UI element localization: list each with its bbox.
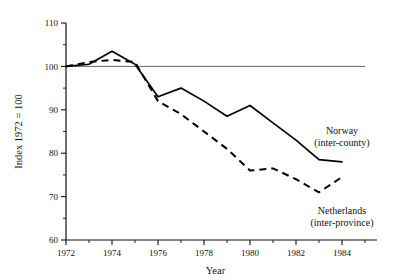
x-tick-label: 1976 xyxy=(149,248,168,258)
x-tick-label: 1978 xyxy=(195,248,214,258)
x-tick-label: 1980 xyxy=(241,248,260,258)
x-axis-title: Year xyxy=(206,265,226,276)
series-line-norway xyxy=(66,51,342,162)
x-tick-label: 1984 xyxy=(333,248,352,258)
y-tick-label: 90 xyxy=(49,105,59,115)
tick-label-group: 6070809010011019721974197619781980198219… xyxy=(45,18,352,258)
chart-figure: 6070809010011019721974197619781980198219… xyxy=(0,0,395,280)
x-tick-label: 1974 xyxy=(103,248,122,258)
y-axis-title: Index 1972 = 100 xyxy=(13,94,24,168)
y-tick-label: 70 xyxy=(49,192,59,202)
series-annotation-name: Netherlands xyxy=(318,205,366,216)
series-annotation-sublabel: (inter-county) xyxy=(314,137,369,149)
series-group xyxy=(66,51,342,192)
y-tick-label: 110 xyxy=(45,18,59,28)
line-chart: 6070809010011019721974197619781980198219… xyxy=(0,0,395,280)
series-annotation-sublabel: (inter-province) xyxy=(310,217,373,229)
series-annotation-name: Norway xyxy=(326,125,358,136)
series-line-netherlands xyxy=(66,60,342,192)
y-tick-label: 100 xyxy=(45,62,59,72)
x-tick-label: 1982 xyxy=(287,248,305,258)
annotation-group: Norway(inter-county)Netherlands(inter-pr… xyxy=(310,125,373,229)
x-tick-label: 1972 xyxy=(57,248,75,258)
y-tick-label: 60 xyxy=(49,235,59,245)
y-tick-label: 80 xyxy=(49,148,59,158)
